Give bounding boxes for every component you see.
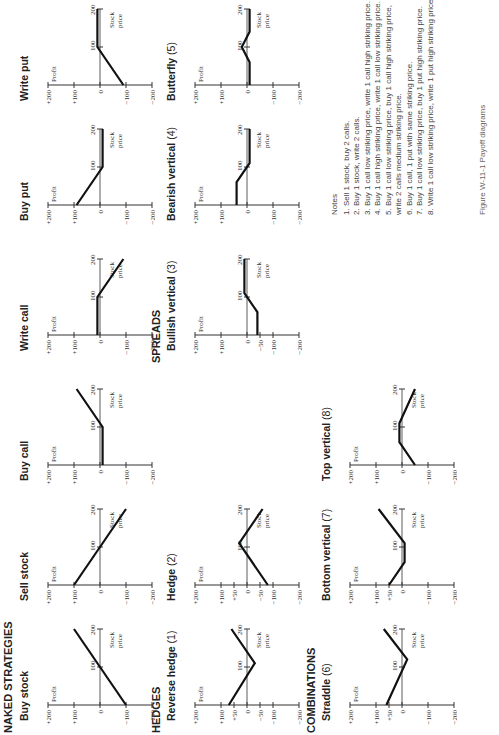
svg-text:Profit: Profit xyxy=(197,186,205,202)
svg-text:Profit: Profit xyxy=(50,66,58,82)
svg-text:0: 0 xyxy=(399,710,407,714)
svg-text:−200: −200 xyxy=(149,90,156,105)
svg-text:price: price xyxy=(263,514,271,528)
svg-text:−100: −100 xyxy=(123,710,131,725)
svg-text:Stock: Stock xyxy=(410,512,418,528)
panel-title: Top vertical (8) xyxy=(320,407,332,481)
svg-text:Profit: Profit xyxy=(197,316,205,332)
note-item: 3. Buy 1 call low striking price, write … xyxy=(363,0,374,215)
svg-text:200: 200 xyxy=(391,504,399,515)
svg-text:−200: −200 xyxy=(451,590,458,605)
panel-buy-stock: Buy stock +200+1000−100−200Profit100200S… xyxy=(18,617,138,735)
svg-text:−200: −200 xyxy=(296,710,303,725)
svg-text:200: 200 xyxy=(89,4,97,15)
svg-text:Profit: Profit xyxy=(50,446,58,462)
svg-text:100: 100 xyxy=(89,160,97,171)
svg-text:200: 200 xyxy=(89,504,97,515)
panel-write-put: Write put +200+1000−100−200Profit100200S… xyxy=(18,0,138,115)
svg-text:Profit: Profit xyxy=(197,686,205,702)
panel-title: Buy stock xyxy=(18,671,30,721)
svg-text:Stock: Stock xyxy=(108,12,116,28)
panel-top-vertical: Top vertical (8)+200+1000−100−200Profit1… xyxy=(320,377,440,495)
panel-bullish-vertical: Bullish vertical (3)+200+1000−50−100−200… xyxy=(165,247,285,365)
payoff-chart: +200+1000−100−200Profit100200Stockprice xyxy=(30,377,155,495)
svg-text:Profit: Profit xyxy=(352,686,360,702)
svg-text:200: 200 xyxy=(236,254,244,265)
svg-text:+100: +100 xyxy=(373,590,381,605)
svg-text:price: price xyxy=(263,634,271,648)
svg-text:price: price xyxy=(418,394,426,408)
svg-text:+100: +100 xyxy=(218,710,226,725)
svg-text:0: 0 xyxy=(97,470,105,474)
svg-text:200: 200 xyxy=(89,124,97,135)
panel-bearish-vertical: Bearish vertical (4)+200+1000−100−200Pro… xyxy=(165,117,285,235)
svg-text:0: 0 xyxy=(244,340,252,344)
svg-text:+200: +200 xyxy=(45,590,53,605)
svg-text:0: 0 xyxy=(97,340,105,344)
note-item: 4. Buy 1 call high striking price, write… xyxy=(373,0,384,215)
svg-text:200: 200 xyxy=(236,624,244,635)
svg-text:+50: +50 xyxy=(231,590,239,601)
svg-text:+200: +200 xyxy=(347,470,355,485)
svg-text:−50: −50 xyxy=(257,590,265,601)
svg-text:price: price xyxy=(116,264,124,278)
svg-text:−200: −200 xyxy=(296,210,303,225)
svg-text:+50: +50 xyxy=(386,710,394,721)
svg-text:+200: +200 xyxy=(45,710,53,725)
payoff-chart: +200+100+500−50−100−200Profit100200Stock… xyxy=(177,617,302,735)
svg-text:−200: −200 xyxy=(451,710,458,725)
svg-text:0: 0 xyxy=(399,470,407,474)
svg-text:200: 200 xyxy=(236,124,244,135)
svg-text:−200: −200 xyxy=(296,340,303,355)
svg-text:−100: −100 xyxy=(425,590,433,605)
note-item: 5. Buy 1 call low striking price, buy 1 … xyxy=(384,0,405,215)
svg-text:100: 100 xyxy=(89,40,97,51)
svg-text:Stock: Stock xyxy=(255,12,263,28)
panel-title: Hedge (2) xyxy=(165,553,177,601)
svg-text:+200: +200 xyxy=(192,710,200,725)
svg-text:+100: +100 xyxy=(71,90,79,105)
panel-buy-put: Buy put +200+1000−100−200Profit100200Sto… xyxy=(18,117,138,235)
svg-text:−100: −100 xyxy=(123,340,131,355)
payoff-chart: +200+100+500−50−100−200Profit100200Stock… xyxy=(177,497,302,615)
svg-text:0: 0 xyxy=(244,710,252,714)
svg-text:0: 0 xyxy=(244,590,252,594)
svg-text:price: price xyxy=(263,134,271,148)
svg-text:Profit: Profit xyxy=(50,186,58,202)
payoff-chart: +200+1000−100−200Profit100200Stockprice xyxy=(177,117,302,235)
payoff-chart: +200+1000−100−200Profit100200Stockprice xyxy=(30,617,155,735)
payoff-chart: +200+1000−100−200Profit100200Stockprice xyxy=(177,0,302,115)
panel-hedge: Hedge (2)+200+100+500−50−100−200Profit10… xyxy=(165,497,285,615)
section-combinations: COMBINATIONS xyxy=(305,648,317,733)
svg-text:100: 100 xyxy=(236,160,244,171)
svg-text:Profit: Profit xyxy=(50,566,58,582)
svg-text:100: 100 xyxy=(391,660,399,671)
panel-title: Sell stock xyxy=(18,552,30,601)
svg-text:200: 200 xyxy=(89,384,97,395)
svg-text:+200: +200 xyxy=(192,590,200,605)
svg-text:Stock: Stock xyxy=(108,632,116,648)
panel-butterfly: Butterfly (5)+200+1000−100−200Profit1002… xyxy=(165,0,285,115)
svg-text:100: 100 xyxy=(391,540,399,551)
note-item: 8. Write 1 call low striking price, writ… xyxy=(426,0,437,215)
svg-text:+200: +200 xyxy=(45,470,53,485)
svg-text:+100: +100 xyxy=(71,590,79,605)
note-item: 2. Buy 1 stock, write 2 calls. xyxy=(352,0,363,215)
svg-text:−200: −200 xyxy=(296,590,303,605)
svg-text:+100: +100 xyxy=(218,210,226,225)
svg-text:+100: +100 xyxy=(218,90,226,105)
svg-text:−100: −100 xyxy=(270,590,278,605)
svg-text:0: 0 xyxy=(244,90,252,94)
svg-text:+200: +200 xyxy=(45,340,53,355)
panel-title: Bullish vertical (3) xyxy=(165,261,177,351)
svg-text:−200: −200 xyxy=(149,470,156,485)
svg-text:+100: +100 xyxy=(71,470,79,485)
notes-list: 1. Sell 1 stock, buy 2 calls.2. Buy 1 st… xyxy=(342,0,437,215)
note-item: 7. Buy 1 call low striking price, buy 1 … xyxy=(415,0,426,215)
svg-text:−50: −50 xyxy=(257,340,265,351)
svg-text:+200: +200 xyxy=(347,710,355,725)
svg-text:Stock: Stock xyxy=(255,262,263,278)
payoff-chart: +200+1000−100−200Profit100200Stockprice xyxy=(30,0,155,115)
svg-text:price: price xyxy=(116,394,124,408)
svg-text:−100: −100 xyxy=(123,90,131,105)
